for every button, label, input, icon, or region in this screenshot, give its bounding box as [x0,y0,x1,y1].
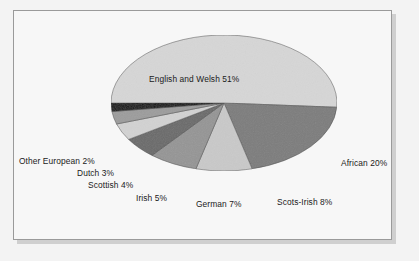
chart-stage: English and Welsh 51% African 20% Scots-… [0,0,419,261]
chart-panel-frame [13,10,392,240]
